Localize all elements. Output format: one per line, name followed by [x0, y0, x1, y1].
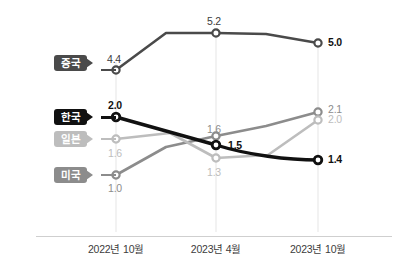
series-badge-japan[interactable]: 일본	[54, 131, 87, 147]
value-label-china-3: 5.0	[328, 37, 342, 48]
value-label-japan-2: 1.3	[207, 167, 221, 178]
series-connector-korea	[101, 116, 116, 119]
value-label-usa-2: 1.6	[207, 124, 221, 135]
data-point-usa-3	[314, 108, 321, 115]
value-label-china-1: 4.4	[107, 54, 121, 65]
series-badge-japan-label: 일본	[61, 134, 80, 145]
data-point-japan-3	[314, 116, 321, 123]
value-label-japan-1: 1.6	[108, 148, 122, 159]
data-point-japan-2	[212, 154, 219, 161]
series-badge-china[interactable]: 중국	[54, 55, 87, 71]
value-label-china-2: 5.2	[207, 16, 221, 27]
value-label-korea-3: 1.4	[328, 154, 342, 165]
series-badge-korea-label: 한국	[61, 112, 80, 123]
x-axis-tick-2: 2023년 4월	[191, 244, 242, 255]
series-line-china	[116, 33, 318, 70]
line-chart: 중국 한국 일본 미국 4.4 5.2 5.0 2.0 1.5 1.4 1.6 …	[0, 0, 414, 268]
series-badge-usa-label: 미국	[61, 170, 80, 181]
value-label-korea-1: 2.0	[108, 100, 122, 111]
data-point-korea-3	[314, 156, 322, 164]
series-connector-japan	[101, 138, 116, 140]
series-connector-usa	[101, 174, 116, 176]
x-axis-tick-1: 2022년 10월	[88, 244, 144, 255]
data-point-china-2	[212, 29, 219, 36]
x-axis-tick-3: 2023년 10월	[290, 244, 346, 255]
data-point-china-3	[314, 39, 321, 46]
series-badge-china-label: 중국	[61, 58, 80, 69]
value-label-usa-3: 2.1	[328, 104, 342, 115]
series-badge-usa[interactable]: 미국	[54, 167, 87, 183]
value-label-korea-2: 1.5	[228, 140, 242, 151]
series-badge-korea[interactable]: 한국	[54, 109, 87, 125]
value-label-japan-3: 2.0	[328, 114, 342, 125]
value-label-usa-1: 1.0	[108, 183, 122, 194]
data-point-korea-2	[212, 141, 220, 149]
x-axis-line	[36, 236, 392, 237]
series-connector-china	[101, 69, 116, 71]
